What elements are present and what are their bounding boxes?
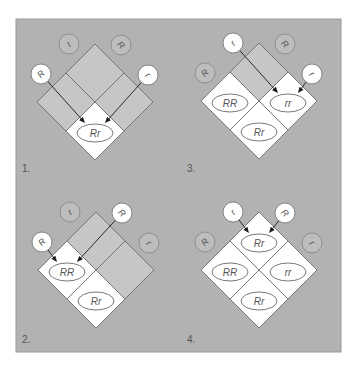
genotype-label: RR [223,267,237,278]
step-label: 3. [187,163,195,174]
genotype-label: rr [285,267,292,278]
step-label: 4. [187,334,195,345]
figure-background [16,19,341,352]
genotype-label: Rr [254,296,265,307]
genotype-label: Rr [254,127,265,138]
step-label: 1. [22,163,30,174]
punnett-figure: RrrRRr1.RRRrrRRr2.RRrrRrrRRr3.RrRRrrRrrR… [0,0,357,367]
genotype-label: RR [223,98,237,109]
step-label: 2. [22,334,30,345]
genotype-label: rr [285,98,292,109]
genotype-label: Rr [254,238,265,249]
genotype-label: Rr [91,296,102,307]
genotype-label: Rr [90,128,101,139]
genotype-label: RR [60,267,74,278]
